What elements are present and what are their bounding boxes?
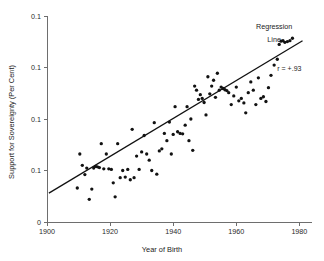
y-tick-label: 0.1	[31, 12, 41, 21]
scatter-point	[102, 167, 105, 170]
scatter-point	[291, 37, 294, 40]
scatter-chart: 0.10.10.10.10 19001920194019601980 Regre…	[0, 0, 324, 261]
y-axis-ticks: 0.10.10.10.10	[31, 12, 47, 227]
scatter-point	[212, 79, 215, 82]
scatter-point	[170, 152, 173, 155]
scatter-point	[216, 72, 219, 75]
scatter-point	[262, 95, 265, 98]
scatter-point	[148, 159, 151, 162]
scatter-point	[240, 97, 243, 100]
scatter-point	[208, 92, 211, 95]
scatter-point	[105, 152, 108, 155]
scatter-point	[201, 97, 204, 100]
scatter-point	[227, 91, 230, 94]
scatter-point	[206, 75, 209, 78]
x-axis-ticks: 19001920194019601980	[39, 222, 307, 236]
scatter-point	[76, 186, 79, 189]
x-axis: 19001920194019601980	[39, 222, 312, 236]
scatter-point	[131, 128, 134, 131]
scatter-point	[121, 169, 124, 172]
scatter-point	[172, 133, 175, 136]
scatter-point	[202, 101, 205, 104]
scatter-point	[137, 168, 140, 171]
scatter-point	[288, 39, 291, 42]
scatter-point	[155, 173, 158, 176]
scatter-point	[132, 176, 135, 179]
scatter-point	[100, 142, 103, 145]
scatter-point	[189, 117, 192, 120]
scatter-point	[199, 93, 202, 96]
x-tick-label: 1920	[102, 227, 118, 236]
scatter-point	[113, 195, 116, 198]
scatter-point	[210, 84, 213, 87]
chart-canvas: 0.10.10.10.10 19001920194019601980 Regre…	[0, 0, 324, 261]
scatter-point	[276, 58, 279, 61]
scatter-point	[160, 147, 163, 150]
y-tick-label: 0.1	[31, 166, 41, 175]
scatter-point	[197, 98, 200, 101]
regression-line-label: Regression	[256, 22, 292, 31]
scatter-point	[98, 166, 101, 169]
y-tick-label: 0.1	[31, 63, 41, 72]
scatter-point	[81, 164, 84, 167]
scatter-point	[129, 178, 132, 181]
scatter-point	[116, 142, 119, 145]
scatter-point	[173, 105, 176, 108]
scatter-point	[193, 84, 196, 87]
scatter-point	[264, 100, 267, 103]
scatter-point	[269, 74, 272, 77]
x-tick-label: 1980	[291, 227, 307, 236]
scatter-point	[247, 91, 250, 94]
scatter-point	[150, 169, 153, 172]
scatter-point	[237, 99, 240, 102]
scatter-point	[140, 150, 143, 153]
x-tick-label: 1960	[228, 227, 244, 236]
scatter-point	[187, 139, 190, 142]
regression-line-label-2: Line	[267, 35, 281, 44]
y-axis-title: Support for Sovereignty (Per Cent)	[7, 65, 16, 179]
scatter-point	[145, 152, 148, 155]
scatter-point	[135, 154, 138, 157]
scatter-point	[165, 139, 168, 142]
scatter-point	[214, 96, 217, 99]
scatter-point	[124, 175, 127, 178]
regression-line	[49, 41, 303, 193]
scatter-point	[257, 76, 260, 79]
scatter-point	[163, 132, 166, 135]
x-tick-label: 1940	[165, 227, 181, 236]
scatter-point	[195, 89, 198, 92]
y-tick-label: 0	[37, 218, 41, 227]
scatter-point	[126, 168, 129, 171]
scatter-point	[78, 152, 81, 155]
scatter-point	[185, 105, 188, 108]
scatter-point	[254, 103, 257, 106]
x-tick-label: 1900	[39, 227, 55, 236]
scatter-point	[204, 113, 207, 116]
y-tick-label: 0.1	[31, 115, 41, 124]
scatter-point	[267, 86, 270, 89]
y-axis: 0.10.10.10.10	[31, 12, 47, 227]
scatter-point	[232, 94, 235, 97]
correlation-label: r = +.93	[277, 65, 301, 72]
scatter-point	[153, 121, 156, 124]
scatter-point	[112, 181, 115, 184]
scatter-point	[242, 101, 245, 104]
scatter-point	[230, 103, 233, 106]
scatter-point	[249, 80, 252, 83]
scatter-point	[191, 149, 194, 152]
data-points	[76, 37, 294, 201]
scatter-point	[244, 111, 247, 114]
scatter-point	[235, 85, 238, 88]
scatter-point	[88, 198, 91, 201]
scatter-point	[90, 187, 93, 190]
scatter-point	[252, 89, 255, 92]
scatter-point	[119, 176, 122, 179]
scatter-point	[184, 124, 187, 127]
scatter-point	[110, 168, 113, 171]
scatter-point	[272, 63, 275, 66]
scatter-point	[83, 173, 86, 176]
scatter-point	[181, 132, 184, 135]
x-axis-title: Year of Birth	[142, 245, 182, 254]
